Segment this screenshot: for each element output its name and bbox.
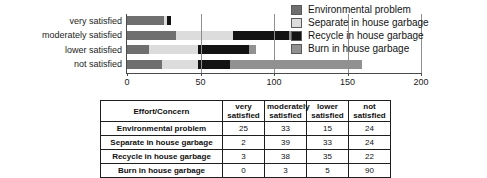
legend-label-0: Environmental problem xyxy=(308,4,411,15)
table-header: Effort/Concern verysatisfiedmoderatelysa… xyxy=(101,101,391,122)
table-row-label-2: Recycle in house garbage xyxy=(101,150,223,164)
tick-mark-200 xyxy=(421,73,422,76)
data-table: Effort/Concern verysatisfiedmoderatelysa… xyxy=(100,100,391,178)
gridline-50 xyxy=(201,14,202,73)
table-row-label-1: Separate in house garbage xyxy=(101,136,223,150)
table-corner-header: Effort/Concern xyxy=(101,101,223,122)
chart-legend: Environmental problemSeparate in house g… xyxy=(291,3,487,55)
table-cell-0-2: 15 xyxy=(307,122,349,136)
table-cell-3-1: 3 xyxy=(265,164,307,178)
x-tick-label-4: 200 xyxy=(401,78,441,87)
data-table-container: Effort/Concern verysatisfiedmoderatelysa… xyxy=(100,100,390,178)
legend-swatch-icon-0 xyxy=(291,5,302,15)
legend-item-2: Recycle in house garbage xyxy=(291,29,487,42)
bar-segment-2-1 xyxy=(149,45,198,54)
table-cell-3-2: 5 xyxy=(307,164,349,178)
tick-mark-50 xyxy=(201,73,202,76)
table-row-label-0: Environmental problem xyxy=(101,122,223,136)
bar-segment-2-0 xyxy=(127,45,149,54)
table-cell-3-0: 0 xyxy=(223,164,265,178)
table-column-header-3: notsatisfied xyxy=(349,101,391,122)
y-axis-label-2: lower satisfied xyxy=(18,46,122,55)
table-cell-2-3: 22 xyxy=(349,150,391,164)
table-cell-2-0: 3 xyxy=(223,150,265,164)
table-column-header-line1-2: lower xyxy=(309,102,346,111)
legend-item-1: Separate in house garbage xyxy=(291,16,487,29)
legend-item-0: Environmental problem xyxy=(291,3,487,16)
table-cell-2-1: 38 xyxy=(265,150,307,164)
table-cell-1-3: 24 xyxy=(349,136,391,150)
x-tick-label-0: 0 xyxy=(107,78,147,87)
y-axis-label-3: not satisfied xyxy=(18,60,122,69)
legend-swatch-icon-1 xyxy=(291,18,302,28)
bar-segment-0-0 xyxy=(127,16,164,25)
table-column-header-line2-2: satisfied xyxy=(309,111,346,120)
legend-label-3: Burn in house garbage xyxy=(308,43,409,54)
table-column-header-line2-0: satisfied xyxy=(225,111,262,120)
table-cell-2-2: 35 xyxy=(307,150,349,164)
bar-segment-1-1 xyxy=(176,31,233,40)
bar-segment-0-2 xyxy=(167,16,171,25)
table-row: Separate in house garbage2393324 xyxy=(101,136,391,150)
table-cell-0-0: 25 xyxy=(223,122,265,136)
table-column-header-line1-3: not xyxy=(351,102,388,111)
tick-mark-0 xyxy=(127,73,128,76)
bar-segment-1-0 xyxy=(127,31,176,40)
table-cell-1-0: 2 xyxy=(223,136,265,150)
legend-label-1: Separate in house garbage xyxy=(308,17,429,28)
table-column-header-line2-1: satisfied xyxy=(267,111,304,120)
bar-segment-3-2 xyxy=(198,60,230,69)
x-tick-label-3: 150 xyxy=(328,78,368,87)
table-row: Environmental problem25331524 xyxy=(101,122,391,136)
legend-item-3: Burn in house garbage xyxy=(291,42,487,55)
table-row-label-3: Burn in house garbage xyxy=(101,164,223,178)
bar-segment-1-2 xyxy=(233,31,289,40)
table-column-header-line1-0: very xyxy=(225,102,262,111)
tick-mark-100 xyxy=(274,73,275,76)
bar-segment-3-1 xyxy=(162,60,197,69)
table-cell-0-1: 33 xyxy=(265,122,307,136)
y-axis-label-1: moderately satisfied xyxy=(18,31,122,40)
y-axis-label-0: very satisfied xyxy=(18,17,122,26)
bar-segment-3-0 xyxy=(127,60,162,69)
table-cell-0-3: 24 xyxy=(349,122,391,136)
table-cell-1-2: 33 xyxy=(307,136,349,150)
table-row: Burn in house garbage03590 xyxy=(101,164,391,178)
table-header-row: Effort/Concern verysatisfiedmoderatelysa… xyxy=(101,101,391,122)
table-column-header-line2-3: satisfied xyxy=(351,111,388,120)
x-tick-label-1: 50 xyxy=(181,78,221,87)
table-row: Recycle in house garbage3383522 xyxy=(101,150,391,164)
bar-segment-2-3 xyxy=(249,45,256,54)
x-tick-label-2: 100 xyxy=(254,78,294,87)
legend-swatch-icon-2 xyxy=(291,31,302,41)
legend-swatch-icon-3 xyxy=(291,44,302,54)
table-cell-1-1: 39 xyxy=(265,136,307,150)
bar-segment-2-2 xyxy=(198,45,249,54)
legend-label-2: Recycle in house garbage xyxy=(308,30,424,41)
table-body: Environmental problem25331524Separate in… xyxy=(101,122,391,178)
table-column-header-2: lowersatisfied xyxy=(307,101,349,122)
gridline-100 xyxy=(274,14,275,73)
table-column-header-line1-1: moderately xyxy=(267,102,304,111)
tick-mark-150 xyxy=(348,73,349,76)
bar-segment-3-3 xyxy=(230,60,362,69)
table-column-header-0: verysatisfied xyxy=(223,101,265,122)
table-cell-3-3: 90 xyxy=(349,164,391,178)
stacked-bar-chart: very satisfiedmoderately satisfiedlower … xyxy=(0,0,487,96)
table-column-header-1: moderatelysatisfied xyxy=(265,101,307,122)
